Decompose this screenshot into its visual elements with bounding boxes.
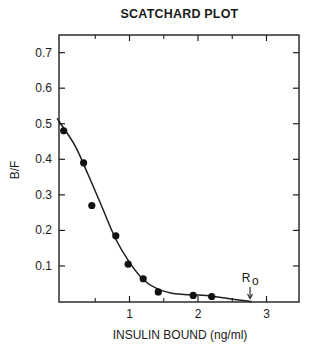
data-point <box>155 288 162 295</box>
plot-frame <box>59 35 299 302</box>
tick-labels: 0.10.20.30.40.50.60.7123 <box>35 46 270 321</box>
x-tick-label: 1 <box>126 307 133 321</box>
scatchard-plot: 0.10.20.30.40.50.60.7123 Ro B/F INSULIN … <box>0 0 312 353</box>
y-tick-label: 0.1 <box>35 259 52 273</box>
data-point <box>80 159 87 166</box>
y-tick-label: 0.5 <box>35 117 52 131</box>
data-point <box>60 127 67 134</box>
y-axis-label: B/F <box>8 161 22 180</box>
data-point <box>125 261 132 268</box>
x-tick-label: 3 <box>263 307 270 321</box>
y-tick-label: 0.7 <box>35 46 52 60</box>
fitted-curve-path <box>57 118 251 301</box>
ro-label: R <box>242 271 251 285</box>
ro-annotation: Ro <box>242 271 259 299</box>
data-point <box>112 232 119 239</box>
x-tick-label: 2 <box>195 307 202 321</box>
x-axis-label: INSULIN BOUND (ng/ml) <box>113 328 248 342</box>
y-tick-label: 0.6 <box>35 81 52 95</box>
y-tick-label: 0.2 <box>35 223 52 237</box>
ro-subscript: o <box>252 274 259 288</box>
y-tick-label: 0.4 <box>35 152 52 166</box>
plot-border <box>59 35 299 302</box>
data-point <box>208 293 215 300</box>
y-tick-label: 0.3 <box>35 188 52 202</box>
fitted-curve <box>57 118 251 301</box>
data-point <box>190 292 197 299</box>
data-point <box>140 275 147 282</box>
axis-ticks <box>59 35 299 302</box>
data-point <box>88 202 95 209</box>
